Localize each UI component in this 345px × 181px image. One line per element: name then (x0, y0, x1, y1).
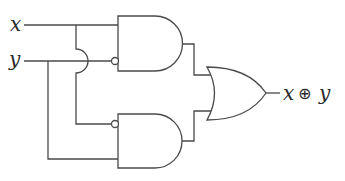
xor-operator-symbol: ⊕ (298, 84, 311, 103)
input-label-x: x (10, 12, 21, 36)
or-gate (207, 67, 266, 120)
output-label-x: x (283, 81, 294, 105)
wire-x-branch-to-lower-and (76, 25, 112, 124)
wire-lower-and-to-or (182, 111, 213, 141)
upper-and-gate (118, 16, 183, 71)
not-bubble-upper (112, 58, 119, 65)
input-label-y: y (8, 47, 21, 71)
lower-and-gate (118, 114, 182, 168)
not-bubble-lower (112, 121, 119, 128)
wire-y-branch-to-lower-and (48, 61, 118, 159)
output-label-y: y (318, 81, 331, 105)
xor-circuit-diagram: x y x ⊕ y (0, 0, 345, 181)
